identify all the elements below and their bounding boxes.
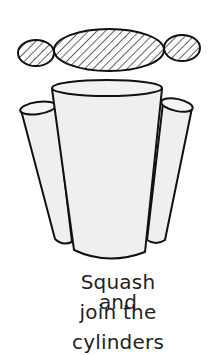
diagram-figure	[0, 0, 212, 260]
caption-line-3: cylinders	[60, 332, 176, 352]
hatched-ellipse-left	[18, 40, 54, 66]
caption-line-2: join the	[60, 302, 176, 322]
hatched-ellipse-center	[54, 29, 164, 71]
hatched-ellipses	[18, 29, 200, 71]
hatched-ellipse-right	[164, 35, 200, 61]
